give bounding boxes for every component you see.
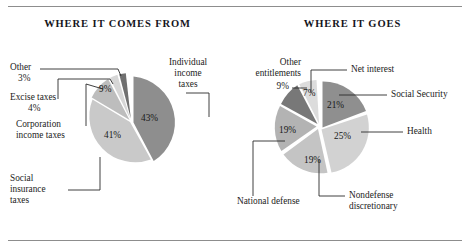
leader-line-individual-income-taxes [186,93,209,117]
callout-nondefense-line1: Nondefense [349,190,393,201]
slice-percent-social-security: 21% [327,100,344,110]
callout-individual-line3: taxes [160,79,216,90]
callout-excise-taxes-percent: 4% [28,103,40,114]
slice-percent-corporation-income-taxes: 9% [99,84,111,94]
slice-percent-nondefense-discretionary: 19% [304,155,321,165]
callout-corporation-line2: income taxes [16,130,65,141]
slice-percent-national-defense: 19% [279,125,296,135]
callout-national-defense: National defense [237,196,300,207]
callout-other-label: Other [10,62,31,73]
callout-other-percent: 3% [18,73,30,84]
slice-percent-individual-income-taxes: 43% [141,113,158,123]
callout-social-security: Social Security [391,89,448,100]
callout-other-entitlements-percent: 9% [235,81,289,92]
leader-line-other [40,69,121,76]
callout-individual-line2: income [160,68,216,79]
callout-social-insurance-line2: insurance [10,184,46,195]
callout-nondefense-line2: discretionary [349,201,398,212]
callout-other-entitlements-line1: Other [235,57,301,68]
callout-social-insurance-line3: taxes [10,195,29,206]
leader-line-national-defense [253,141,285,196]
callout-net-interest: Net interest [351,64,394,75]
callout-other-entitlements-line2: entitlements [235,68,301,79]
callout-excise-taxes-label: Excise taxes [10,92,56,103]
chart-panel-where-it-goes: WHERE IT GOES Other entitlements 9% Net … [235,0,470,249]
leader-line-social-insurance-taxes [68,157,100,190]
slice-percent-health: 25% [334,131,351,141]
slice-percent-social-insurance-taxes: 41% [104,130,121,140]
callout-individual-line1: Individual [160,57,216,68]
chart-panel-where-it-comes-from: WHERE IT COMES FROM Other 3% Excise taxe… [0,0,235,249]
callout-corporation-line1: Corporation [16,119,61,130]
callout-social-insurance-line1: Social [10,173,33,184]
callout-health: Health [407,126,432,137]
slice-percent-net-interest: 7% [303,88,315,98]
